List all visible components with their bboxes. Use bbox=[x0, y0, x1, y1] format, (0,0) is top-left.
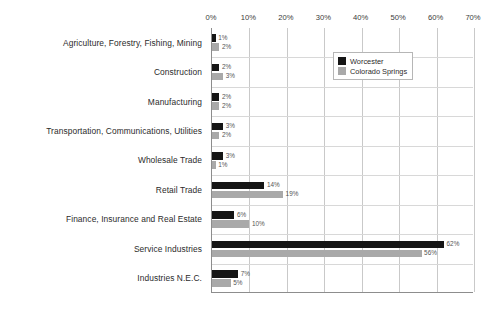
bar-worcester[interactable] bbox=[212, 270, 238, 278]
category-label-row: Finance, Insurance and Real Estate bbox=[0, 205, 207, 234]
bar-value-label: 6% bbox=[234, 212, 246, 218]
category-label: Wholesale Trade bbox=[138, 155, 207, 165]
x-tick-label-30: 30% bbox=[316, 13, 331, 22]
category-axis: Agriculture, Forestry, Fishing, MiningCo… bbox=[0, 28, 207, 293]
bar-group: 3%1% bbox=[212, 146, 473, 175]
bar-item[interactable]: 19% bbox=[212, 191, 473, 199]
bar-colorado-springs[interactable] bbox=[212, 73, 223, 81]
bar-worcester[interactable] bbox=[212, 211, 234, 219]
bar-item[interactable]: 6% bbox=[212, 211, 473, 219]
gridline-70 bbox=[474, 28, 475, 292]
bar-value-label: 3% bbox=[223, 153, 235, 159]
bar-colorado-springs[interactable] bbox=[212, 191, 283, 199]
category-label: Service Industries bbox=[134, 244, 207, 254]
bar-group: 7%5% bbox=[212, 264, 473, 293]
category-label: Construction bbox=[154, 67, 207, 77]
bar-value-label: 3% bbox=[223, 123, 235, 129]
category-label: Manufacturing bbox=[148, 97, 207, 107]
bar-worcester[interactable] bbox=[212, 152, 223, 160]
bar-value-label: 2% bbox=[219, 44, 231, 50]
bar-value-label: 1% bbox=[216, 35, 228, 41]
plot-area: 1%2%2%3%2%2%3%2%3%1%14%19%6%10%62%56%7%5… bbox=[211, 28, 473, 293]
legend-swatch-worcester bbox=[338, 57, 346, 65]
bar-value-label: 62% bbox=[444, 241, 459, 247]
bar-item[interactable]: 2% bbox=[212, 93, 473, 101]
bar-item[interactable]: 3% bbox=[212, 123, 473, 131]
bar-group: 2%2% bbox=[212, 87, 473, 116]
x-tick-label-0: 0% bbox=[206, 13, 217, 22]
bar-value-label: 2% bbox=[219, 132, 231, 138]
bar-value-label: 2% bbox=[219, 94, 231, 100]
bar-item[interactable]: 3% bbox=[212, 152, 473, 160]
bar-value-label: 2% bbox=[219, 64, 231, 70]
bar-group: 3%2% bbox=[212, 116, 473, 145]
x-tick-label-60: 60% bbox=[428, 13, 443, 22]
category-label: Finance, Insurance and Real Estate bbox=[66, 214, 207, 224]
category-label: Industries N.E.C. bbox=[137, 273, 207, 283]
bar-item[interactable]: 14% bbox=[212, 182, 473, 190]
category-label: Transportation, Communications, Utilitie… bbox=[46, 126, 207, 136]
bar-worcester[interactable] bbox=[212, 182, 264, 190]
legend-entry[interactable]: Worcester bbox=[338, 56, 407, 66]
x-tick-label-20: 20% bbox=[278, 13, 293, 22]
bar-value-label: 14% bbox=[264, 182, 279, 188]
bar-value-label: 56% bbox=[422, 250, 437, 256]
bar-value-label: 5% bbox=[231, 280, 243, 286]
bar-item[interactable]: 10% bbox=[212, 220, 473, 228]
bar-worcester[interactable] bbox=[212, 241, 444, 249]
bar-item[interactable]: 1% bbox=[212, 161, 473, 169]
legend-label: Colorado Springs bbox=[350, 67, 407, 76]
x-tick-label-50: 50% bbox=[391, 13, 406, 22]
bar-value-label: 3% bbox=[223, 73, 235, 79]
bar-colorado-springs[interactable] bbox=[212, 279, 231, 287]
bar-item[interactable]: 56% bbox=[212, 250, 473, 258]
x-tick-label-70: 70% bbox=[465, 13, 480, 22]
bar-group: 62%56% bbox=[212, 234, 473, 263]
bar-value-label: 1% bbox=[216, 162, 228, 168]
category-label: Retail Trade bbox=[156, 185, 207, 195]
bar-colorado-springs[interactable] bbox=[212, 102, 219, 110]
bar-item[interactable]: 5% bbox=[212, 279, 473, 287]
category-label-row: Transportation, Communications, Utilitie… bbox=[0, 116, 207, 145]
bar-colorado-springs[interactable] bbox=[212, 132, 219, 140]
legend-swatch-colorado-springs bbox=[338, 67, 346, 75]
bar-group: 14%19% bbox=[212, 175, 473, 204]
x-tick-label-10: 10% bbox=[241, 13, 256, 22]
bar-value-label: 19% bbox=[283, 191, 298, 197]
bar-value-label: 7% bbox=[238, 271, 250, 277]
category-label-row: Service Industries bbox=[0, 234, 207, 263]
x-axis-tick-labels: 0%10%20%30%40%50%60%70% bbox=[211, 13, 473, 27]
category-label-row: Agriculture, Forestry, Fishing, Mining bbox=[0, 28, 207, 57]
category-label: Agriculture, Forestry, Fishing, Mining bbox=[63, 38, 207, 48]
bar-group: 6%10% bbox=[212, 205, 473, 234]
category-label-row: Retail Trade bbox=[0, 175, 207, 204]
bar-item[interactable]: 62% bbox=[212, 241, 473, 249]
x-tick-label-40: 40% bbox=[353, 13, 368, 22]
category-label-row: Construction bbox=[0, 57, 207, 86]
category-label-row: Wholesale Trade bbox=[0, 146, 207, 175]
bar-colorado-springs[interactable] bbox=[212, 250, 422, 258]
bar-item[interactable]: 2% bbox=[212, 132, 473, 140]
category-label-row: Industries N.E.C. bbox=[0, 264, 207, 293]
bar-item[interactable]: 2% bbox=[212, 102, 473, 110]
bar-worcester[interactable] bbox=[212, 64, 219, 72]
chart-legend: WorcesterColorado Springs bbox=[333, 52, 413, 80]
bar-value-label: 2% bbox=[219, 103, 231, 109]
legend-entry[interactable]: Colorado Springs bbox=[338, 66, 407, 76]
bar-worcester[interactable] bbox=[212, 123, 223, 131]
bar-item[interactable]: 2% bbox=[212, 43, 473, 51]
bar-value-label: 10% bbox=[249, 221, 264, 227]
bar-item[interactable]: 7% bbox=[212, 270, 473, 278]
bar-item[interactable]: 1% bbox=[212, 34, 473, 42]
bar-colorado-springs[interactable] bbox=[212, 43, 219, 51]
category-label-row: Manufacturing bbox=[0, 87, 207, 116]
bar-colorado-springs[interactable] bbox=[212, 220, 249, 228]
legend-label: Worcester bbox=[350, 57, 384, 66]
bar-chart: 0%10%20%30%40%50%60%70% Agriculture, For… bbox=[0, 0, 483, 310]
bar-worcester[interactable] bbox=[212, 93, 219, 101]
